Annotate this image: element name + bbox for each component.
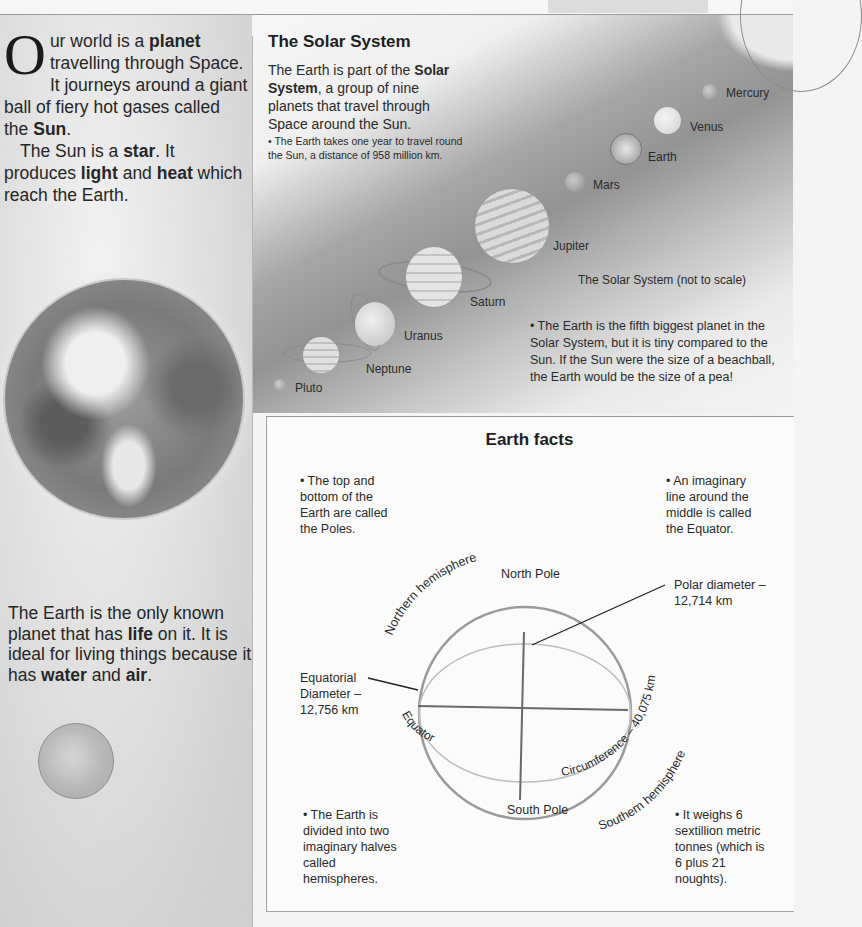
label-jupiter: Jupiter: [553, 239, 589, 253]
life-paragraph: The Earth is the only known planet that …: [8, 603, 258, 685]
not-to-scale-caption: The Solar System (not to scale): [578, 273, 746, 287]
label-saturn: Saturn: [470, 295, 505, 309]
circumference-label: Circumference – 40,075 km: [560, 674, 658, 779]
planet-venus: [654, 107, 681, 134]
northern-hemisphere-label: Northern hemisphere: [382, 550, 478, 637]
size-comparison-fact: • The Earth is the fifth biggest planet …: [530, 318, 792, 386]
drop-cap: O: [4, 32, 46, 78]
south-pole-label: South Pole: [507, 802, 568, 818]
planet-jupiter: [474, 188, 550, 264]
solar-system-title: The Solar System: [268, 32, 411, 52]
equatorial-diameter-label: Equatorial Diameter – 12,756 km: [300, 670, 361, 718]
planet-uranus: [355, 302, 395, 346]
polar-axis: [520, 632, 524, 800]
label-pluto: Pluto: [295, 381, 322, 395]
label-mars: Mars: [593, 178, 620, 192]
label-neptune: Neptune: [366, 362, 411, 376]
planet-pluto: [274, 379, 286, 391]
page-tab-edge: [548, 0, 708, 13]
moon-illustration: [38, 723, 114, 799]
planet-earth: [610, 133, 642, 165]
planet-neptune: [303, 337, 339, 373]
polar-diameter-label: Polar diameter – 12,714 km: [674, 577, 766, 609]
label-earth: Earth: [648, 150, 677, 164]
planet-saturn: [405, 246, 463, 308]
label-mercury: Mercury: [726, 86, 769, 100]
southern-hemisphere-label: Southern hemisphere: [597, 748, 689, 833]
label-uranus: Uranus: [404, 329, 443, 343]
label-venus: Venus: [690, 120, 723, 134]
orbit-fact: • The Earth takes one year to travel rou…: [268, 134, 468, 162]
sun-star-paragraph: The Sun is a star. It produces light and…: [4, 140, 249, 206]
solar-system-intro: The Earth is part of the Solar System, a…: [268, 61, 468, 133]
globe-outline: [419, 607, 631, 819]
north-pole-label: North Pole: [501, 566, 560, 582]
planet-mars: [565, 172, 585, 192]
earth-photo: [3, 278, 245, 520]
equatorial-leader: [368, 678, 418, 690]
intro-paragraph: Our world is a planet travelling through…: [4, 30, 249, 206]
planet-mercury: [702, 84, 718, 100]
earth-diagram: Northern hemisphere Southern hemisphere …: [266, 416, 793, 910]
